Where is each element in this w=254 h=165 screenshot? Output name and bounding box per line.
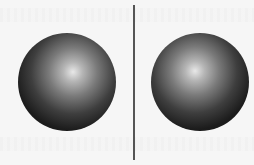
background-texture-top [0, 8, 254, 22]
right-sphere [151, 33, 249, 131]
left-sphere [18, 33, 116, 131]
vertical-divider [133, 5, 135, 160]
background-texture-bottom [0, 137, 254, 151]
